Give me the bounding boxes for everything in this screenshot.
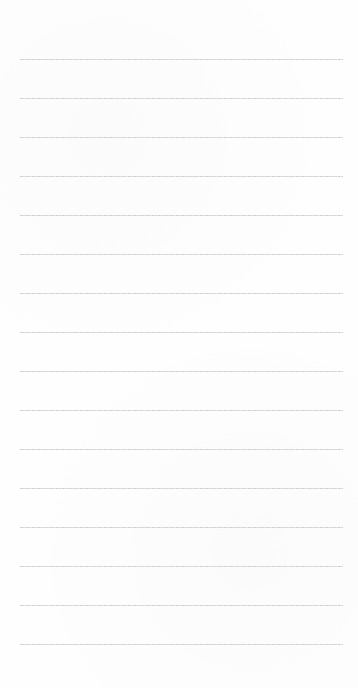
ruled-line — [20, 332, 343, 333]
ruled-line — [20, 215, 343, 216]
ruled-line — [20, 371, 343, 372]
ruled-line — [20, 410, 343, 411]
ruled-line — [20, 449, 343, 450]
ruled-line — [20, 566, 343, 567]
ruled-line — [20, 98, 343, 99]
ruled-line — [20, 176, 343, 177]
ruled-line — [20, 527, 343, 528]
lined-paper — [0, 0, 358, 688]
ruled-line — [20, 254, 343, 255]
ruled-line — [20, 488, 343, 489]
ruled-line — [20, 137, 343, 138]
ruled-line — [20, 605, 343, 606]
ruled-line — [20, 644, 343, 645]
ruled-line — [20, 59, 343, 60]
ruled-line — [20, 293, 343, 294]
